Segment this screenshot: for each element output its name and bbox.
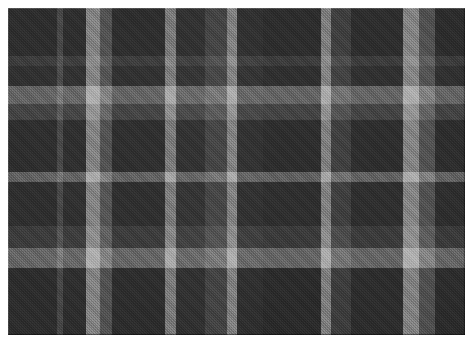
weft-stripes-shadow-layer [8,8,465,335]
warp-stripes-layer [8,8,465,335]
image-viewport [0,0,473,343]
weft-stripes-highlight-layer [8,8,465,335]
fabric-cut-edge [8,8,465,335]
fabric-sheen-overlay [8,8,465,335]
thread-grain-texture [8,8,465,335]
tartan-fabric-swatch [8,8,465,335]
fabric-ground-layer [8,8,465,335]
twill-weave-texture [8,8,465,335]
